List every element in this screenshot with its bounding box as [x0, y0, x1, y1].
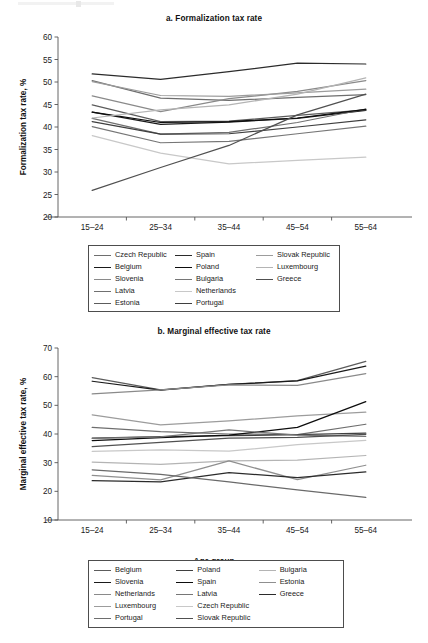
legend-line-swatch — [256, 267, 273, 268]
legend-item: Bulgaria — [175, 273, 254, 285]
legend-line-swatch — [259, 570, 276, 571]
legend-item: Netherlands — [175, 285, 254, 297]
legend-line-swatch — [176, 606, 193, 607]
legend-item-label: Bulgaria — [280, 564, 307, 576]
y-tick-label: 30 — [43, 168, 53, 177]
legend-line-swatch — [94, 291, 111, 292]
legend-item-label: Luxembourg — [115, 600, 156, 612]
legend-line-swatch — [176, 570, 193, 571]
legend-item: Slovenia — [94, 576, 174, 588]
legend-line-swatch — [94, 303, 111, 304]
y-tick-label: 35 — [43, 146, 53, 155]
legend-line-swatch — [176, 582, 193, 583]
legend-item-label: Slovak Republic — [197, 612, 250, 624]
panel-a-svg: 20253035404550556015–2425–3435–4445–5455… — [0, 25, 428, 250]
y-tick-label: 45 — [43, 101, 53, 110]
legend-line-swatch — [259, 594, 276, 595]
legend-item-label: Czech Republic — [197, 600, 249, 612]
legend-item-label: Greece — [277, 273, 301, 285]
legend-item-label: Poland — [197, 564, 220, 576]
panel-b-plot: 1020304050607015–2425–3435–4445–5455–64M… — [0, 338, 428, 556]
y-tick-label: 55 — [43, 56, 53, 65]
legend-item: Spain — [175, 249, 254, 261]
series-line — [92, 412, 366, 425]
legend-line-swatch — [94, 606, 111, 607]
legend-item: Czech Republic — [94, 249, 173, 261]
legend-item-label: Netherlands — [115, 588, 155, 600]
legend-item: Latvia — [94, 285, 173, 297]
legend-item: Slovenia — [94, 273, 173, 285]
legend-item: Estonia — [259, 576, 339, 588]
legend-item-label: Czech Republic — [115, 249, 167, 261]
legend-line-swatch — [176, 594, 193, 595]
y-tick-label: 60 — [43, 373, 53, 382]
x-tick-label: 55–64 — [354, 526, 377, 535]
legend-item: Belgium — [94, 564, 174, 576]
legend-item-label: Latvia — [115, 285, 135, 297]
legend-item-label: Spain — [196, 249, 215, 261]
y-tick-label: 60 — [43, 33, 53, 42]
legend-item: Poland — [176, 564, 256, 576]
y-tick-label: 30 — [43, 459, 53, 468]
panel-b-title: b. Marginal effective tax rate — [0, 318, 428, 338]
legend-item-label: Belgium — [115, 564, 142, 576]
series-line — [92, 63, 366, 79]
legend-line-swatch — [94, 570, 111, 571]
legend-item: Luxembourg — [256, 261, 335, 273]
legend-item: Slovak Republic — [176, 612, 256, 624]
y-tick-label: 25 — [43, 191, 53, 200]
legend-item: Latvia — [176, 588, 256, 600]
legend-item: Belgium — [94, 261, 173, 273]
x-tick-label: 45–54 — [286, 526, 309, 535]
legend-item: Portugal — [94, 612, 174, 624]
legend-item-label: Estonia — [115, 297, 140, 309]
legend-item: Spain — [176, 576, 256, 588]
x-tick-label: 35–44 — [218, 223, 241, 232]
legend-item: Slovak Republic — [256, 249, 335, 261]
legend-item-label: Slovenia — [115, 273, 143, 285]
legend-line-swatch — [175, 303, 192, 304]
y-tick-label: 40 — [43, 430, 53, 439]
x-tick-label: 45–54 — [286, 223, 309, 232]
series-line — [92, 366, 366, 390]
legend-item-label: Belgium — [115, 261, 142, 273]
legend-item: Poland — [175, 261, 254, 273]
y-tick-label: 50 — [43, 401, 53, 410]
legend-item-label: Portugal — [115, 612, 143, 624]
panel-b-svg: 1020304050607015–2425–3435–4445–5455–64M… — [0, 338, 428, 556]
legend-item-label: Netherlands — [196, 285, 236, 297]
legend-line-swatch — [176, 618, 193, 619]
x-tick-label: 55–64 — [354, 223, 377, 232]
legend-item-label: Slovenia — [115, 576, 143, 588]
legend-line-swatch — [94, 618, 111, 619]
series-line — [92, 94, 366, 190]
panel-a-title: a. Formalization tax rate — [0, 0, 428, 25]
series-line — [92, 456, 366, 465]
legend-line-swatch — [94, 267, 111, 268]
legend-item: Greece — [259, 588, 339, 600]
legend-item-label: Slovak Republic — [277, 249, 330, 261]
y-axis-title: Marginal effective tax rate, % — [19, 377, 28, 490]
legend-line-swatch — [94, 594, 111, 595]
panel-a-legend: Czech RepublicBelgiumSloveniaLatviaEston… — [88, 245, 340, 312]
legend-line-swatch — [256, 255, 273, 256]
panel-b-legend: BelgiumSloveniaNetherlandsLuxembourgPort… — [88, 560, 344, 628]
legend-line-swatch — [175, 279, 192, 280]
y-tick-label: 10 — [43, 516, 53, 525]
x-tick-label: 15–24 — [81, 526, 104, 535]
legend-item-label: Spain — [197, 576, 216, 588]
legend-line-swatch — [256, 279, 273, 280]
y-tick-label: 20 — [43, 213, 53, 222]
legend-line-swatch — [94, 255, 111, 256]
y-tick-label: 70 — [43, 344, 53, 353]
panel-a-plot: 20253035404550556015–2425–3435–4445–5455… — [0, 25, 428, 250]
legend-item-label: Poland — [196, 261, 219, 273]
series-line — [92, 82, 366, 97]
series-line — [92, 440, 366, 451]
legend-item: Greece — [256, 273, 335, 285]
legend-item-label: Latvia — [197, 588, 217, 600]
y-tick-label: 50 — [43, 78, 53, 87]
legend-line-swatch — [259, 582, 276, 583]
legend-line-swatch — [94, 582, 111, 583]
legend-item-label: Bulgaria — [196, 273, 223, 285]
